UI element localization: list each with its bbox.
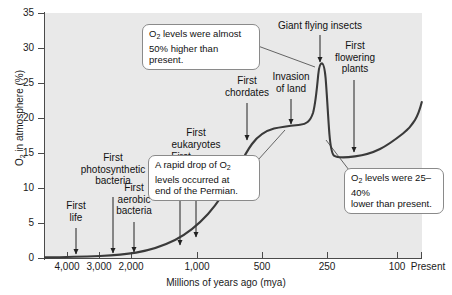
x-axis-line [44, 258, 422, 259]
x-axis-title: Millions of years ago (mya) [0, 277, 452, 288]
y-tick-35 [38, 13, 45, 14]
oxygen-history-chart: 35 30 25 20 15 10 5 0 4,000 3,000 2,000 … [0, 0, 452, 295]
y-tick-0 [38, 258, 45, 259]
x-tick-1000 [197, 252, 198, 259]
callout-permian-drop: A rapid drop of O2 levels occurred at en… [148, 155, 260, 201]
annotation-invasion-of-land: Invasion of land [272, 71, 309, 94]
y-tick-15 [38, 153, 45, 154]
y-tick-5 [38, 223, 45, 224]
x-tick-500 [262, 252, 263, 259]
callout-lower-than-present: O2 levels were 25–40% lower than present… [344, 168, 444, 214]
annotation-first-eukaryotes: First eukaryotes [172, 127, 221, 150]
x-tick-label-4000: 4,000 [54, 262, 79, 272]
y-axis-title-post: in atmosphere (%) [14, 70, 25, 154]
y-tick-label-5: 5 [0, 218, 34, 228]
y-tick-label-35: 35 [0, 8, 34, 18]
x-tick-label-500: 500 [254, 262, 271, 272]
x-tick-250 [327, 252, 328, 259]
x-tick-present [421, 252, 422, 259]
x-tick-label-present: Present [411, 262, 445, 272]
x-tick-label-250: 250 [319, 262, 336, 272]
annotation-first-flowering-plants: First flowering plants [335, 40, 375, 75]
x-tick-3000 [99, 252, 100, 259]
y-axis-title-sub: 2 [19, 154, 26, 158]
annotation-first-life: First life [66, 200, 85, 223]
x-tick-4000 [67, 252, 68, 259]
y-tick-20 [38, 118, 45, 119]
callout-o2-higher-post: levels were almost 50% higher than prese… [149, 28, 241, 65]
y-axis-title: O2 in atmosphere (%) [14, 38, 26, 198]
x-tick-label-3000: 3,000 [86, 262, 111, 272]
y-tick-label-0: 0 [0, 253, 34, 263]
callout-permian-drop-post: levels occurred at end of the Permian. [155, 174, 238, 197]
y-tick-10 [38, 188, 45, 189]
annotation-first-chordates: First chordates [225, 75, 269, 98]
annotation-first-aerobic-bacteria: First aerobic bacteria [116, 182, 152, 217]
x-tick-label-1000: 1,000 [184, 262, 209, 272]
x-tick-100 [397, 252, 398, 259]
x-tick-label-100: 100 [389, 262, 406, 272]
y-tick-30 [38, 48, 45, 49]
callout-o2-higher: O2 levels were almost 50% higher than pr… [142, 24, 260, 70]
y-axis-title-pre: O [14, 158, 25, 166]
callout-lower-than-present-post: levels were 25–40% lower than present. [351, 172, 432, 209]
y-tick-25 [38, 83, 45, 84]
callout-permian-drop-pre: A rapid drop of O [155, 159, 227, 170]
x-tick-label-2000: 2,000 [118, 262, 143, 272]
x-tick-2000 [131, 252, 132, 259]
callout-permian-drop-sub: 2 [227, 164, 231, 171]
annotation-giant-flying-insects: Giant flying insects [278, 20, 362, 32]
